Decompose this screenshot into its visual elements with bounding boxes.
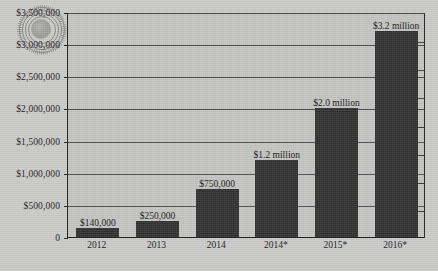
right-axis-tick: [417, 127, 424, 128]
plot-area: $140,000$250,000$750,000$1.2 million$2.0…: [67, 13, 425, 238]
bar-value-label: $140,000: [66, 218, 130, 228]
bar-value-label: $2.0 million: [304, 98, 368, 108]
bar: [76, 228, 119, 237]
x-axis-tick-label: 2014*: [246, 240, 306, 250]
y-axis-tick: [64, 142, 68, 143]
bar-value-label: $750,000: [185, 179, 249, 189]
gridline: [68, 45, 424, 46]
gridline: [68, 142, 424, 143]
right-axis-tick: [417, 98, 424, 99]
y-axis-tick: [64, 206, 68, 207]
y-axis-tick-label: $2,000,000: [16, 104, 60, 114]
y-axis-tick-label: $1,500,000: [16, 137, 60, 147]
y-axis-tick-label: $3,500,000: [16, 8, 60, 18]
gridline: [68, 13, 424, 14]
bar-value-label: $250,000: [125, 211, 189, 221]
x-axis-tick-label: 2013: [127, 240, 187, 250]
y-axis-tick: [64, 77, 68, 78]
right-axis-tick: [417, 211, 424, 212]
bar-value-label: $1.2 million: [245, 150, 309, 160]
y-axis-tick-label: $3,000,000: [16, 40, 60, 50]
right-axis-tick: [417, 70, 424, 71]
gridline: [68, 77, 424, 78]
bar: [136, 221, 179, 237]
y-axis-tick: [64, 45, 68, 46]
y-axis-tick-label-zero: 0: [55, 233, 60, 243]
bar-value-label: $3.2 million: [364, 21, 428, 31]
y-axis-tick: [64, 238, 68, 239]
right-axis-tick: [417, 155, 424, 156]
x-axis-labels: 2012201320142014*2015*2016*: [67, 240, 425, 260]
x-axis-tick-label: 2012: [67, 240, 127, 250]
y-axis-tick: [64, 109, 68, 110]
right-axis-tick: [417, 42, 424, 43]
x-axis-tick-label: 2016*: [365, 240, 425, 250]
x-axis-tick-label: 2014: [186, 240, 246, 250]
x-axis-tick-label: 2015*: [306, 240, 366, 250]
bar: [315, 108, 358, 237]
bar-chart: $500,000$1,000,000$1,500,000$2,000,000$2…: [0, 0, 438, 271]
gridline: [68, 109, 424, 110]
bar: [196, 189, 239, 237]
gridline: [68, 206, 424, 207]
y-axis-tick-label: $500,000: [24, 201, 60, 211]
y-axis-tick: [64, 174, 68, 175]
y-axis-labels: $500,000$1,000,000$1,500,000$2,000,000$2…: [0, 0, 64, 271]
bar: [375, 31, 418, 237]
bar: [255, 160, 298, 237]
right-axis-tick: [417, 183, 424, 184]
y-axis-tick-label: $2,500,000: [16, 72, 60, 82]
gridline: [68, 174, 424, 175]
y-axis-tick: [64, 13, 68, 14]
y-axis-tick-label: $1,000,000: [16, 169, 60, 179]
